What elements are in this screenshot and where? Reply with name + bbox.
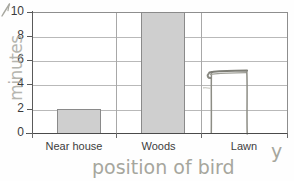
- x-axis-label-lawn: Lawn: [201, 140, 287, 153]
- x-axis-label-near-house: Near house: [32, 140, 116, 153]
- y-axis-line: [32, 11, 33, 134]
- x-tick-2: [201, 133, 202, 138]
- y-tick-6: [27, 60, 33, 61]
- x-tick-3: [287, 133, 288, 138]
- plot-area: [32, 12, 288, 133]
- handwritten-x-axis-label: position of bird: [92, 156, 235, 178]
- y-tick-4: [27, 84, 33, 85]
- x-axis-line: [26, 133, 288, 134]
- y-tick-2: [27, 109, 33, 110]
- x-tick-0: [32, 133, 33, 138]
- x-tick-1: [116, 133, 117, 138]
- bar-woods: [141, 12, 185, 134]
- y-tick-8: [27, 36, 33, 37]
- category-divider-1: [116, 13, 117, 133]
- y-axis-label-6: 6: [2, 53, 24, 65]
- y-axis-label-2: 2: [2, 102, 24, 114]
- bar-near-house: [57, 109, 101, 134]
- y-axis-label-4: 4: [2, 77, 24, 89]
- category-divider-2: [201, 13, 202, 133]
- y-axis-label-0: 0: [2, 126, 24, 138]
- worksheet-chart-image: 10 8 6 4 2 0 Near house Woods Lawn minut…: [0, 0, 294, 181]
- y-axis-label-8: 8: [2, 29, 24, 41]
- y-axis-label-10: 10: [0, 5, 24, 17]
- x-axis-label-woods: Woods: [116, 140, 201, 153]
- y-tick-10: [27, 12, 33, 13]
